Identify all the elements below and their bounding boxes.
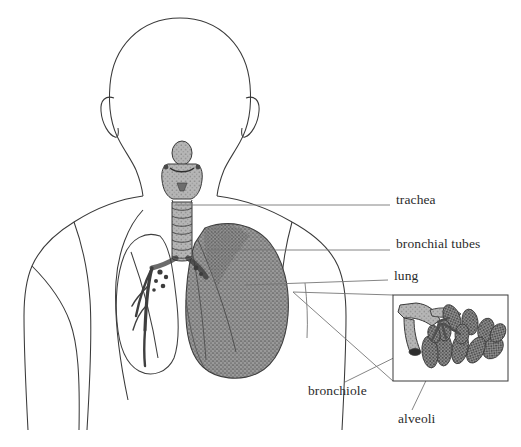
- thyroid-cartilage: [162, 164, 203, 199]
- label-bronchiole: bronchiole: [308, 383, 367, 399]
- label-alveoli: alveoli: [398, 411, 435, 427]
- bronchiole-lumen: [409, 349, 421, 356]
- epiglottis: [172, 141, 192, 165]
- head-outline: [109, 18, 180, 170]
- alveoli-inset: [393, 295, 509, 381]
- inset-connector-bottom: [293, 292, 393, 381]
- lung-leader-drop: [305, 283, 307, 338]
- neck-right: [217, 170, 224, 196]
- label-bronchial-tubes: bronchial tubes: [396, 236, 480, 252]
- respiratory-diagram: trachea bronchial tubes lung bronchiole …: [0, 0, 521, 447]
- larynx: [162, 141, 203, 205]
- shoulder-left: [24, 196, 143, 430]
- diagram-canvas: [0, 0, 521, 447]
- neck-left: [136, 170, 143, 196]
- label-lung: lung: [394, 268, 418, 284]
- torso-side-left: [32, 266, 79, 430]
- arm-crease-left: [74, 222, 91, 430]
- trachea: [172, 202, 192, 261]
- inset-connectors: [293, 292, 393, 381]
- label-trachea: trachea: [396, 192, 436, 208]
- right-lung: [186, 224, 289, 379]
- trachea-tube: [172, 202, 192, 261]
- inset-connector-top: [293, 292, 393, 295]
